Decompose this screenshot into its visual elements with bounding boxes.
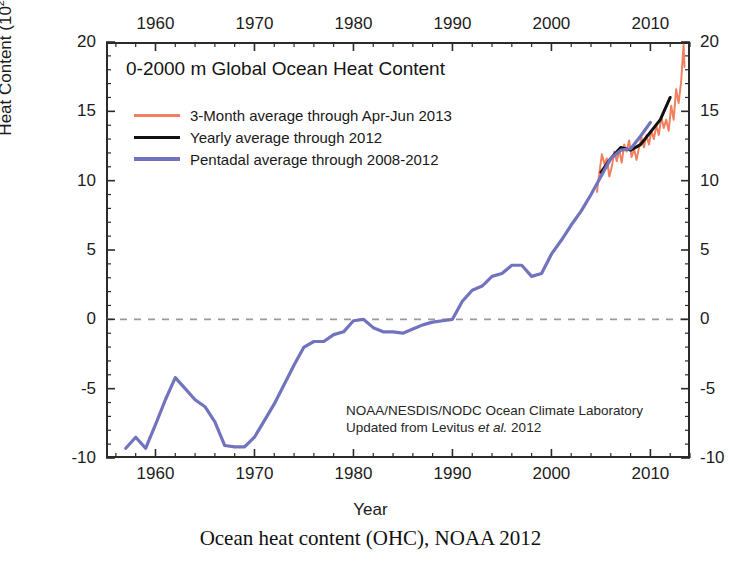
credit-annotation: NOAA/NESDIS/NODC Ocean Climate Laborator… (346, 402, 643, 436)
y-tick-label-right-20: 20 (700, 32, 719, 52)
legend-label-pentadal: Pentadal average through 2008-2012 (190, 151, 439, 168)
y-tick-label-left-5: 5 (40, 240, 96, 260)
y-axis-label-exponent: 22 (0, 0, 6, 6)
legend-item-yearly: Yearly average through 2012 (134, 126, 452, 148)
legend-swatch-3month (134, 114, 180, 117)
x-tick-label-bottom-2000: 2000 (533, 464, 571, 484)
x-tick-label-bottom-1990: 1990 (434, 464, 472, 484)
y-tick-label-right-15: 15 (700, 101, 719, 121)
legend-swatch-yearly (134, 136, 180, 139)
y-tick-label-left-15: 15 (40, 101, 96, 121)
x-tick-label-top-2010: 2010 (631, 14, 669, 34)
plot-area: 0-2000 m Global Ocean Heat Content 3-Mon… (106, 42, 690, 458)
credit-etal: et al. (478, 420, 507, 435)
y-tick-label-right-10: 10 (700, 171, 719, 191)
figure-caption: Ocean heat content (OHC), NOAA 2012 (0, 526, 741, 551)
x-axis-label: Year (0, 500, 741, 520)
x-tick-label-bottom-1970: 1970 (236, 464, 274, 484)
credit-source-pre: Updated from Levitus (346, 420, 478, 435)
y-tick-label-right--10: -10 (700, 448, 725, 468)
x-tick-label-bottom-1980: 1980 (335, 464, 373, 484)
legend-item-pentadal: Pentadal average through 2008-2012 (134, 148, 452, 170)
x-tick-label-top-1990: 1990 (434, 14, 472, 34)
y-tick-label-right--5: -5 (700, 379, 715, 399)
legend-swatch-pentadal (134, 157, 180, 160)
credit-year: 2012 (507, 420, 541, 435)
y-tick-label-left-0: 0 (40, 309, 96, 329)
y-tick-label-left--5: -5 (40, 379, 96, 399)
x-tick-label-top-2000: 2000 (533, 14, 571, 34)
x-tick-label-bottom-2010: 2010 (631, 464, 669, 484)
legend-item-3month: 3-Month average through Apr-Jun 2013 (134, 104, 452, 126)
y-tick-label-left-20: 20 (40, 32, 96, 52)
y-tick-label-right-5: 5 (700, 240, 709, 260)
y-tick-label-left-10: 10 (40, 171, 96, 191)
y-axis-label: Heat Content (1022 Joules) (0, 0, 16, 150)
credit-line-2: Updated from Levitus et al. 2012 (346, 419, 643, 436)
chart-legend: 3-Month average through Apr-Jun 2013 Yea… (134, 104, 452, 170)
series-line-0 (597, 45, 685, 192)
credit-line-1: NOAA/NESDIS/NODC Ocean Climate Laborator… (346, 402, 643, 419)
ocean-heat-content-figure: 0-2000 m Global Ocean Heat Content 3-Mon… (0, 0, 741, 561)
legend-label-yearly: Yearly average through 2012 (190, 129, 382, 146)
x-tick-label-top-1970: 1970 (236, 14, 274, 34)
y-tick-label-left--10: -10 (40, 448, 96, 468)
x-tick-label-bottom-1960: 1960 (137, 464, 175, 484)
legend-label-3month: 3-Month average through Apr-Jun 2013 (190, 107, 452, 124)
chart-title: 0-2000 m Global Ocean Heat Content (126, 58, 445, 80)
y-axis-label-main: Heat Content (10 (0, 6, 15, 135)
x-tick-label-top-1960: 1960 (137, 14, 175, 34)
x-tick-label-top-1980: 1980 (335, 14, 373, 34)
y-tick-label-right-0: 0 (700, 309, 709, 329)
series-line-2 (126, 122, 651, 448)
